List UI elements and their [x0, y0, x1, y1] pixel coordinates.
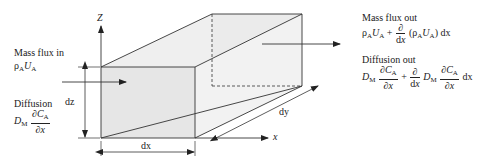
dy-label: dy: [279, 106, 289, 117]
diffusion-in-expr: DM ∂CA∂x: [14, 108, 51, 135]
front-face: [101, 67, 195, 138]
dx-label: dx: [141, 140, 151, 151]
dz-label: dz: [65, 96, 74, 107]
mass-flux-in-expr: ρAUA: [14, 60, 36, 75]
z-axis-label: Z: [97, 12, 103, 23]
diffusion-out-expr: DM ∂CA∂x + ∂dx DM ∂CA∂x dx: [362, 64, 472, 91]
mass-flux-out-expr: ρAUA + ∂dx (ρAUA) dx: [362, 22, 450, 45]
mass-flux-in-title: Mass flux in: [14, 47, 64, 59]
x-axis-label: x: [273, 131, 277, 142]
